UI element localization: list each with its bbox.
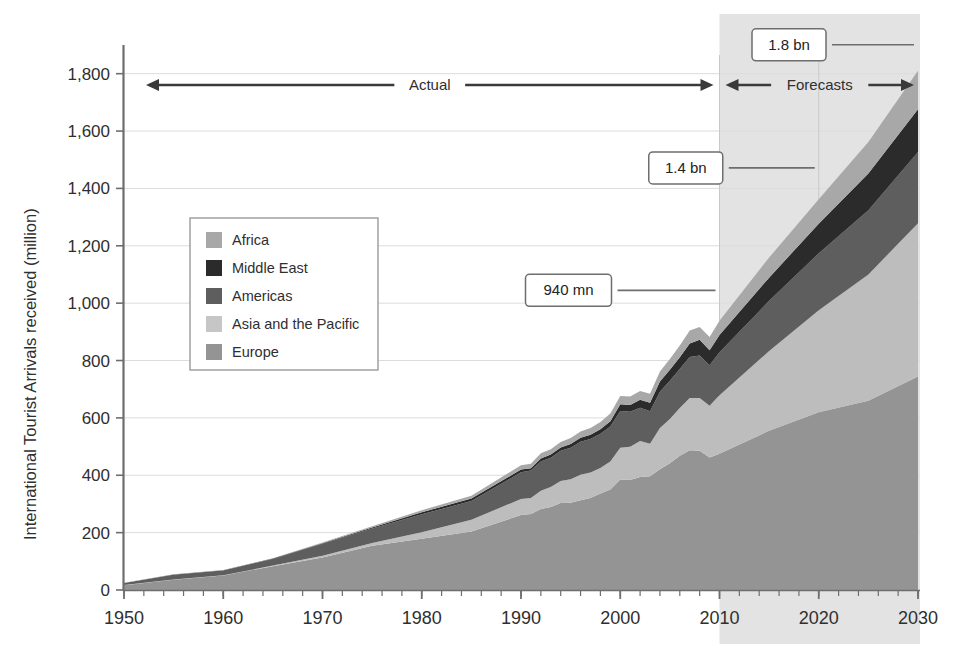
y-axis-title: International Tourist Arrivals received … (21, 208, 39, 540)
legend-label: Africa (232, 232, 270, 248)
legend-swatch (206, 260, 222, 276)
y-tick-label: 1,800 (67, 65, 110, 84)
period-label-forecasts: Forecasts (787, 76, 853, 93)
period-label-actual: Actual (409, 76, 451, 93)
legend: AfricaMiddle EastAmericasAsia and the Pa… (190, 218, 378, 370)
y-tick-label: 1,600 (67, 122, 110, 141)
x-tick-label: 2000 (600, 608, 640, 628)
legend-item-europe[interactable]: Europe (206, 344, 279, 360)
y-axis-ticks: 02004006008001,0001,2001,4001,6001,800 (67, 65, 124, 600)
legend-item-middle-east[interactable]: Middle East (206, 260, 308, 276)
legend-item-americas[interactable]: Americas (206, 288, 292, 304)
callout-940mn: 940 mn (526, 274, 716, 306)
legend-swatch (206, 316, 222, 332)
y-tick-label: 400 (82, 466, 110, 485)
callout-text: 940 mn (543, 281, 593, 298)
x-tick-label: 1990 (501, 608, 541, 628)
y-tick-label: 1,200 (67, 237, 110, 256)
legend-label: Americas (232, 288, 292, 304)
y-tick-label: 200 (82, 524, 110, 543)
legend-item-africa[interactable]: Africa (206, 232, 270, 248)
legend-swatch (206, 288, 222, 304)
legend-label: Asia and the Pacific (232, 316, 359, 332)
legend-label: Middle East (232, 260, 308, 276)
y-tick-label: 0 (101, 581, 110, 600)
x-tick-label: 1950 (104, 608, 144, 628)
y-tick-label: 1,400 (67, 179, 110, 198)
x-tick-label: 1960 (203, 608, 243, 628)
legend-label: Europe (232, 344, 279, 360)
chart-canvas: 02004006008001,0001,2001,4001,6001,800 1… (0, 0, 963, 662)
y-tick-label: 1,000 (67, 294, 110, 313)
legend-swatch (206, 344, 222, 360)
legend-swatch (206, 232, 222, 248)
x-tick-label: 2030 (898, 608, 938, 628)
callout-text: 1.8 bn (768, 36, 810, 53)
x-tick-label: 1980 (402, 608, 442, 628)
tourism-arrivals-chart: 02004006008001,0001,2001,4001,6001,800 1… (0, 0, 963, 662)
y-tick-label: 800 (82, 352, 110, 371)
period-arrows: ActualForecasts (146, 76, 914, 93)
x-tick-label: 2010 (699, 608, 739, 628)
callout-text: 1.4 bn (665, 159, 707, 176)
y-tick-label: 600 (82, 409, 110, 428)
x-tick-label: 2020 (799, 608, 839, 628)
x-tick-label: 1970 (302, 608, 342, 628)
